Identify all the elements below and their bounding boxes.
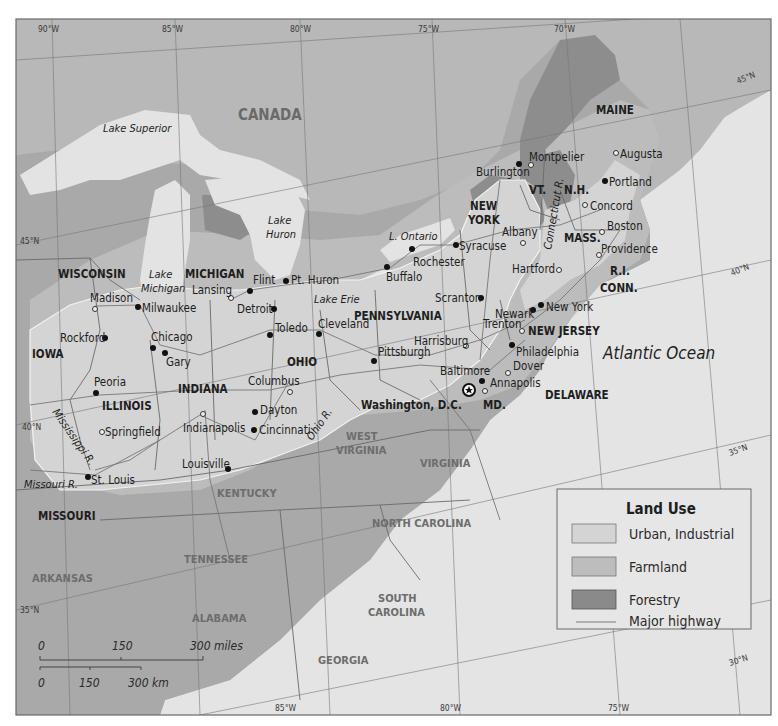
svg-text:80°W: 80°W [440, 703, 462, 713]
svg-text:Scranton: Scranton [435, 291, 481, 305]
svg-text:Toledo: Toledo [274, 321, 308, 335]
svg-text:Lake Superior: Lake Superior [103, 122, 172, 135]
legend-title: Land Use [626, 500, 696, 518]
svg-text:NEW JERSEY: NEW JERSEY [528, 324, 600, 338]
svg-text:75°W: 75°W [418, 24, 440, 34]
svg-text:Farmland: Farmland [629, 559, 687, 575]
svg-text:Lake: Lake [268, 214, 291, 227]
svg-text:GEORGIA: GEORGIA [318, 654, 369, 667]
svg-text:Dover: Dover [513, 359, 545, 373]
svg-text:Major highway: Major highway [629, 613, 721, 629]
svg-text:MICHIGAN: MICHIGAN [185, 267, 244, 281]
svg-text:Springfield: Springfield [105, 425, 161, 439]
svg-text:Gary: Gary [166, 355, 191, 369]
svg-text:Boston: Boston [607, 219, 643, 233]
svg-text:Rockford: Rockford [60, 331, 105, 345]
svg-text:Indianapolis: Indianapolis [183, 421, 245, 435]
svg-text:YORK: YORK [467, 213, 501, 227]
svg-text:L. Ontario: L. Ontario [389, 230, 438, 243]
svg-text:Lake: Lake [149, 268, 172, 281]
svg-text:SOUTH: SOUTH [378, 592, 417, 605]
svg-text:Lansing: Lansing [192, 283, 232, 297]
svg-text:85°W: 85°W [162, 24, 184, 34]
svg-text:Concord: Concord [590, 199, 633, 213]
svg-text:Cleveland: Cleveland [318, 317, 369, 331]
svg-text:Philadelphia: Philadelphia [516, 345, 579, 359]
country-label-canada: CANADA [238, 106, 302, 124]
svg-text:Forestry: Forestry [629, 592, 681, 608]
svg-text:Lake Erie: Lake Erie [314, 293, 360, 306]
svg-text:Chicago: Chicago [151, 330, 193, 344]
svg-text:St. Louis: St. Louis [91, 473, 135, 487]
svg-text:300 miles: 300 miles [190, 639, 243, 653]
svg-text:150: 150 [79, 676, 100, 690]
svg-text:NORTH CAROLINA: NORTH CAROLINA [372, 517, 472, 530]
svg-text:Syracuse: Syracuse [459, 239, 506, 253]
svg-text:Milwaukee: Milwaukee [142, 301, 196, 315]
svg-text:OHIO: OHIO [287, 355, 317, 369]
legend-item-urban: Urban, Industrial [572, 524, 734, 543]
svg-text:75°W: 75°W [608, 703, 630, 713]
svg-text:Albany: Albany [502, 225, 538, 239]
svg-text:90°W: 90°W [38, 24, 60, 34]
legend: Land Use Urban, Industrial Farmland Fore… [557, 489, 751, 629]
svg-text:Providence: Providence [601, 242, 658, 256]
svg-text:Dayton: Dayton [260, 403, 297, 417]
svg-text:Rochester: Rochester [413, 255, 465, 269]
svg-text:Portland: Portland [609, 175, 652, 189]
svg-text:Buffalo: Buffalo [386, 270, 422, 284]
svg-text:80°W: 80°W [290, 24, 312, 34]
svg-text:VIRGINIA: VIRGINIA [336, 444, 387, 457]
svg-text:KENTUCKY: KENTUCKY [217, 487, 277, 500]
svg-text:N.H.: N.H. [564, 183, 589, 197]
svg-text:New York: New York [546, 300, 593, 314]
capital-star-icon [463, 384, 475, 396]
svg-text:Augusta: Augusta [620, 147, 663, 161]
svg-text:DELAWARE: DELAWARE [545, 388, 609, 402]
svg-text:Huron: Huron [266, 228, 296, 241]
svg-text:Peoria: Peoria [94, 375, 126, 389]
svg-text:CONN.: CONN. [600, 281, 638, 295]
svg-text:Trenton: Trenton [482, 317, 522, 331]
svg-text:Annapolis: Annapolis [490, 376, 541, 390]
svg-text:Madison: Madison [90, 291, 133, 305]
svg-text:Baltimore: Baltimore [440, 364, 490, 378]
svg-text:Columbus: Columbus [248, 374, 300, 388]
land-use-map: 90°W 85°W 80°W 75°W 70°W 85°W 80°W 75°W … [0, 0, 778, 726]
svg-text:ALABAMA: ALABAMA [192, 612, 247, 625]
svg-text:Urban, Industrial: Urban, Industrial [629, 526, 734, 542]
svg-text:NEW: NEW [470, 199, 498, 213]
svg-text:VT.: VT. [529, 183, 546, 197]
svg-text:Washington, D.C.: Washington, D.C. [361, 398, 462, 412]
ocean-label: Atlantic Ocean [602, 343, 715, 363]
svg-text:Pt. Huron: Pt. Huron [291, 273, 339, 287]
svg-text:IOWA: IOWA [32, 347, 64, 361]
svg-text:85°W: 85°W [275, 703, 297, 713]
svg-text:300 km: 300 km [128, 676, 169, 690]
svg-text:CAROLINA: CAROLINA [368, 606, 425, 619]
svg-text:MASS.: MASS. [564, 231, 601, 245]
svg-text:45°N: 45°N [20, 236, 39, 246]
svg-text:MAINE: MAINE [596, 103, 634, 117]
svg-text:Burlington: Burlington [476, 165, 530, 179]
svg-text:ILLINOIS: ILLINOIS [102, 399, 152, 413]
legend-item-farmland: Farmland [572, 557, 687, 576]
svg-text:Detroit: Detroit [237, 302, 273, 316]
svg-text:40°N: 40°N [22, 422, 41, 432]
svg-text:WEST: WEST [346, 430, 378, 443]
svg-text:Montpelier: Montpelier [529, 150, 585, 164]
svg-text:150: 150 [112, 639, 133, 653]
svg-text:0: 0 [38, 639, 45, 653]
svg-text:Missouri R.: Missouri R. [24, 478, 78, 491]
svg-text:Pittsburgh: Pittsburgh [378, 345, 431, 359]
svg-text:R.I.: R.I. [610, 264, 630, 278]
svg-text:WISCONSIN: WISCONSIN [58, 267, 126, 281]
svg-text:Michigan: Michigan [141, 282, 185, 295]
svg-text:Flint: Flint [253, 273, 275, 287]
svg-text:35°N: 35°N [20, 605, 39, 615]
svg-text:TENNESSEE: TENNESSEE [184, 553, 248, 566]
svg-text:ARKANSAS: ARKANSAS [32, 572, 93, 585]
svg-text:INDIANA: INDIANA [178, 382, 228, 396]
svg-text:MD.: MD. [483, 398, 506, 412]
svg-text:70°W: 70°W [554, 24, 576, 34]
